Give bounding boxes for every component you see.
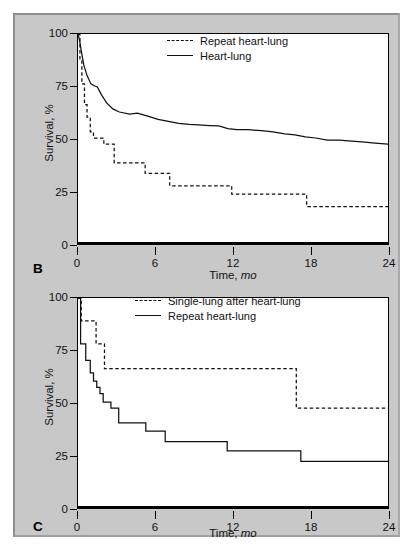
x-tick-c-0 <box>77 511 78 519</box>
y-tick-label-b-75: 75 <box>27 80 68 92</box>
legend-label-b-0: Repeat heart-lung <box>200 35 288 47</box>
plot-area-b <box>77 33 389 245</box>
legend-item-b-0: Repeat heart-lung <box>167 33 288 48</box>
legend-label-c-1: Repeat heart-lung <box>168 310 256 322</box>
y-tick-b-0 <box>70 245 77 246</box>
panel-b: 025507510006121824 Survival, % Time, mo … <box>15 15 402 279</box>
y-tick-label-c-75: 75 <box>27 344 68 356</box>
y-axis-label-c: Survival, % <box>43 357 55 437</box>
y-tick-label-c-100: 100 <box>27 291 68 303</box>
y-tick-c-100 <box>70 297 77 298</box>
x-tick-label-b-6: 6 <box>152 257 158 269</box>
x-tick-label-b-24: 24 <box>383 257 396 269</box>
x-tick-label-b-12: 12 <box>227 257 240 269</box>
panel-letter-b: B <box>33 261 43 276</box>
legend-swatch-solid-icon <box>135 315 161 316</box>
y-tick-label-b-25: 25 <box>27 186 68 198</box>
legend-swatch-solid-icon <box>167 55 193 56</box>
x-tick-c-12 <box>233 511 234 519</box>
x-tick-label-b-18: 18 <box>305 257 318 269</box>
legend-c: Single-lung after heart-lungRepeat heart… <box>135 293 301 323</box>
figure-container: 025507510006121824 Survival, % Time, mo … <box>13 13 400 537</box>
legend-swatch-dashed-icon <box>135 300 161 301</box>
x-axis-label-c: Time, mo <box>77 527 389 539</box>
x-axis-label-c-unit: mo <box>241 527 257 539</box>
legend-b: Repeat heart-lungHeart-lung <box>167 33 288 63</box>
y-tick-c-25 <box>70 456 77 457</box>
x-axis-label-c-text: Time, <box>209 527 241 539</box>
x-tick-b-6 <box>155 247 156 255</box>
panel-letter-c: C <box>33 519 43 534</box>
y-tick-label-c-0: 0 <box>27 503 68 515</box>
x-tick-c-24 <box>389 511 390 519</box>
x-tick-c-6 <box>155 511 156 519</box>
y-tick-c-0 <box>70 509 77 510</box>
y-tick-c-50 <box>70 403 77 404</box>
x-tick-c-18 <box>311 511 312 519</box>
y-tick-label-c-25: 25 <box>27 450 68 462</box>
x-tick-b-18 <box>311 247 312 255</box>
y-tick-b-50 <box>70 139 77 140</box>
chart-curves-c <box>78 298 388 506</box>
y-tick-b-100 <box>70 33 77 34</box>
panel-c: 025507510006121824 Survival, % Time, mo … <box>15 279 402 535</box>
x-tick-label-b-0: 0 <box>74 257 80 269</box>
y-tick-c-75 <box>70 350 77 351</box>
legend-swatch-dashed-icon <box>167 40 193 41</box>
y-tick-label-b-100: 100 <box>27 27 68 39</box>
legend-label-c-0: Single-lung after heart-lung <box>168 295 301 307</box>
chart-curves-b <box>78 34 388 242</box>
y-tick-label-b-0: 0 <box>27 239 68 251</box>
legend-item-c-1: Repeat heart-lung <box>135 308 301 323</box>
legend-item-b-1: Heart-lung <box>167 48 288 63</box>
x-tick-b-0 <box>77 247 78 255</box>
plot-area-c <box>77 297 389 509</box>
legend-item-c-0: Single-lung after heart-lung <box>135 293 301 308</box>
y-tick-b-25 <box>70 192 77 193</box>
legend-label-b-1: Heart-lung <box>200 50 251 62</box>
x-tick-b-24 <box>389 247 390 255</box>
x-tick-b-12 <box>233 247 234 255</box>
y-tick-b-75 <box>70 86 77 87</box>
y-axis-label-b: Survival, % <box>43 93 55 173</box>
